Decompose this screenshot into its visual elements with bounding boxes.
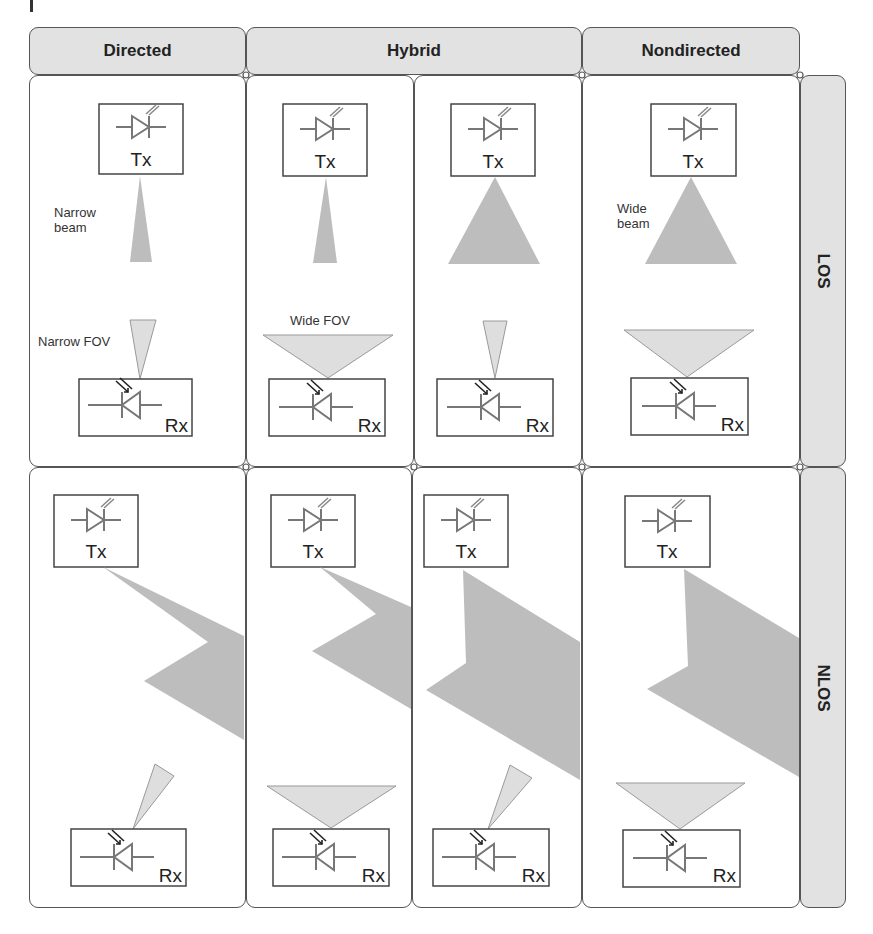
wide-fov: [267, 786, 396, 828]
tx-box: Tx: [54, 495, 138, 567]
svg-text:Tx: Tx: [656, 541, 678, 562]
reflected-narrow-beam: [312, 567, 411, 709]
annotation-narrow-fov: Narrow FOV: [38, 334, 110, 349]
wide-beam: [645, 177, 737, 264]
narrow-beam: [130, 176, 152, 262]
annotation-line: beam: [617, 216, 650, 231]
svg-text:Rx: Rx: [526, 415, 550, 436]
diagram-graphics: Tx Rx Tx Rx Tx: [0, 0, 873, 934]
annotation-wide-beam: Wide beam: [617, 201, 650, 231]
reflected-narrow-beam: [103, 567, 244, 740]
rx-box: Rx: [269, 379, 385, 436]
wide-fov: [616, 783, 745, 829]
svg-text:Tx: Tx: [314, 151, 336, 172]
svg-text:Rx: Rx: [159, 865, 183, 886]
tx-box: Tx: [99, 104, 183, 174]
narrow-fov: [130, 320, 156, 379]
tx-box: Tx: [283, 104, 367, 176]
rx-box: Rx: [433, 829, 549, 886]
svg-text:Rx: Rx: [362, 865, 386, 886]
optical-link-classification-diagram: Directed Hybrid Nondirected LOS NLOS: [0, 0, 873, 934]
wide-fov: [624, 330, 754, 377]
reflected-wide-beam: [426, 570, 580, 780]
narrow-fov: [133, 764, 174, 829]
tx-box: Tx: [451, 104, 535, 176]
svg-text:Tx: Tx: [302, 541, 324, 562]
svg-text:Tx: Tx: [482, 151, 504, 172]
rx-box: Rx: [631, 378, 748, 435]
svg-text:Rx: Rx: [721, 414, 745, 435]
svg-text:Rx: Rx: [713, 865, 737, 886]
annotation-line: beam: [54, 220, 96, 235]
svg-text:Rx: Rx: [522, 865, 546, 886]
tx-box: Tx: [271, 495, 355, 567]
annotation-line: Wide: [617, 201, 650, 216]
rx-box: Rx: [79, 378, 192, 436]
svg-text:Tx: Tx: [85, 541, 107, 562]
rx-box: Rx: [623, 830, 740, 887]
rx-box: Rx: [273, 829, 389, 886]
annotation-wide-fov: Wide FOV: [290, 313, 350, 328]
narrow-fov: [488, 765, 532, 829]
reflected-wide-beam: [647, 569, 799, 777]
narrow-fov: [483, 321, 507, 378]
svg-text:Rx: Rx: [165, 415, 189, 436]
tx-box: Tx: [651, 104, 736, 176]
svg-text:Tx: Tx: [130, 149, 152, 170]
rx-box: Rx: [71, 829, 186, 886]
narrow-beam: [313, 177, 337, 263]
svg-text:Tx: Tx: [682, 151, 704, 172]
annotation-line: Narrow: [54, 205, 96, 220]
svg-text:Rx: Rx: [358, 415, 382, 436]
wide-fov: [263, 335, 393, 378]
svg-text:Tx: Tx: [455, 541, 477, 562]
tx-box: Tx: [625, 496, 710, 567]
rx-box: Rx: [437, 379, 553, 436]
wide-beam: [448, 177, 540, 264]
tx-box: Tx: [424, 495, 508, 567]
annotation-narrow-beam: Narrow beam: [54, 205, 96, 235]
